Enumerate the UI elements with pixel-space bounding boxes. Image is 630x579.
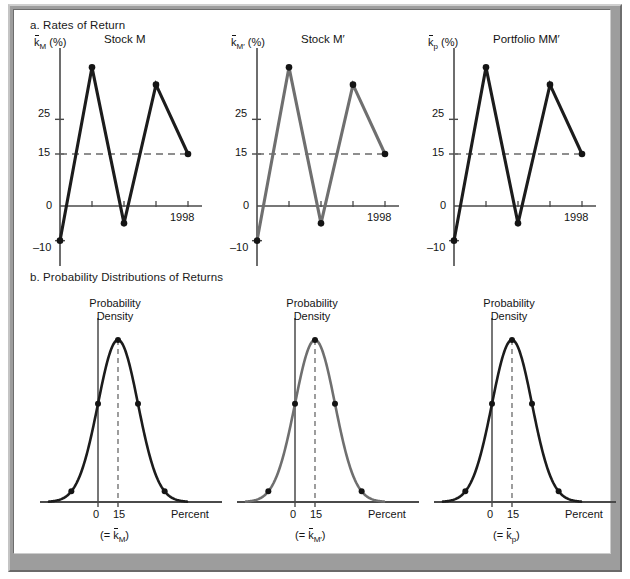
- panel-b3-mean-label: (= kp): [493, 529, 520, 544]
- panel-b1-density-label: Probability Density: [70, 297, 160, 322]
- panel-a1-ytick-15: 15: [38, 146, 50, 158]
- panel-b1-xtick-0: 0: [93, 508, 99, 520]
- panel-b2-marker-1: [292, 401, 298, 407]
- panel-b2-marker-0: [265, 488, 271, 494]
- panel-a2-data-point-1: [286, 64, 293, 71]
- panel-b3-mean-suffix: ): [516, 529, 520, 541]
- panel-a3-y-axis-label: kp (%): [428, 36, 458, 51]
- panel-a1-data-point-0: [57, 237, 64, 244]
- panel-b2-peak-marker: [312, 337, 318, 343]
- panel-b2-marker-3: [359, 488, 365, 494]
- panel-b1-mean-suffix: ): [125, 529, 129, 541]
- panel-a2-ytick-0: 0: [243, 199, 249, 211]
- panel-a2-y-axis-subscript: M′: [237, 42, 245, 51]
- panel-b3-xtick-0: 0: [487, 508, 493, 520]
- panel-b1-marker-1: [95, 401, 101, 407]
- panel-a3-data-point-0: [451, 237, 458, 244]
- panel-a3-ytick-25: 25: [432, 107, 444, 119]
- panel-b1-density-line1: Probability: [70, 297, 160, 310]
- panel-a3-y-axis-subscript: p: [434, 42, 438, 51]
- panel-a1-y-axis-units: (%): [49, 36, 66, 48]
- panel-b3-density-line2: Density: [464, 310, 554, 323]
- panel-b1-marker-2: [135, 401, 141, 407]
- panel-a1-data-point-2: [121, 220, 128, 227]
- panel-b1-marker-0: [68, 488, 74, 494]
- panel-a2-heading: Stock M′: [301, 33, 345, 45]
- panel-a2-data-point-0: [254, 237, 261, 244]
- panel-a1-y-axis-label: kM (%): [34, 36, 66, 51]
- panel-a2-ytick-25: 25: [235, 107, 247, 119]
- panel-a3-data-point-2: [515, 220, 522, 227]
- panel-a1-y-axis-subscript: M: [40, 42, 47, 51]
- panel-b2-density-label: Probability Density: [267, 297, 357, 322]
- panel-b2-density-line2: Density: [267, 310, 357, 323]
- panel-b3-density-label: Probability Density: [464, 297, 554, 322]
- panel-a3-data-point-1: [483, 64, 490, 71]
- panel-a1-data-point-4: [185, 151, 192, 158]
- panel-b1-density-line2: Density: [70, 310, 160, 323]
- panel-b3-marker-1: [489, 401, 495, 407]
- panel-b2-density-line1: Probability: [267, 297, 357, 310]
- panel-b1-peak-marker: [115, 337, 121, 343]
- panel-b2-mean-prefix: (=: [295, 529, 308, 541]
- panel-a1-data-point-1: [89, 64, 96, 71]
- panel-b2-xtick-15: 15: [310, 508, 322, 520]
- panel-b2-xtick-0: 0: [290, 508, 296, 520]
- panel-a3-ytick-0: 0: [440, 199, 446, 211]
- panel-a3-data-point-4: [579, 151, 586, 158]
- panel-a1-data-point-3: [153, 81, 160, 88]
- panel-a3-ytick-neg10: –10: [427, 241, 445, 253]
- panel-b2-x-axis-label: Percent: [368, 508, 406, 520]
- panel-b3-marker-0: [462, 488, 468, 494]
- panel-a2-data-point-4: [382, 151, 389, 158]
- panel-a2-ytick-neg10: –10: [230, 241, 248, 253]
- panel-b1-x-axis-label: Percent: [171, 508, 209, 520]
- panel-b1-mean-label: (= kM): [100, 529, 129, 544]
- panel-a1-heading: Stock M: [104, 33, 146, 45]
- panel-a3-data-point-3: [547, 81, 554, 88]
- panel-a3-ytick-15: 15: [432, 146, 444, 158]
- panel-b3-xtick-15: 15: [507, 508, 519, 520]
- panel-b1-mean-prefix: (=: [100, 529, 113, 541]
- panel-a3-heading: Portfolio MM′: [493, 33, 560, 45]
- panel-a2-data-point-2: [318, 220, 325, 227]
- panel-b3-peak-marker: [509, 337, 515, 343]
- panel-a2-y-axis-label: kM′ (%): [231, 36, 265, 51]
- panel-a1-ytick-25: 25: [38, 107, 50, 119]
- panel-a3-xtick-1998: 1998: [564, 211, 588, 223]
- panel-b1-xtick-15: 15: [113, 508, 125, 520]
- panel-b2-marker-2: [332, 401, 338, 407]
- panel-a2-ytick-15: 15: [235, 146, 247, 158]
- panel-a2-y-axis-units: (%): [248, 36, 265, 48]
- panel-a3-y-axis-units: (%): [441, 36, 458, 48]
- figure-root: a. Rates of Return b. Probability Distri…: [0, 0, 630, 579]
- plots-canvas: [0, 0, 630, 579]
- panel-a1-xtick-1998: 1998: [170, 211, 194, 223]
- panel-b3-x-axis-label: Percent: [565, 508, 603, 520]
- panel-b2-mean-suffix: ): [322, 529, 326, 541]
- panel-b3-marker-3: [556, 488, 562, 494]
- panel-b1-marker-3: [162, 488, 168, 494]
- panel-a1-ytick-0: 0: [46, 199, 52, 211]
- panel-b2-mean-label: (= kM′): [295, 529, 326, 544]
- panel-a2-data-point-3: [350, 81, 357, 88]
- panel-a1-ytick-neg10: –10: [33, 241, 51, 253]
- panel-b3-mean-prefix: (=: [493, 529, 506, 541]
- panel-a2-xtick-1998: 1998: [367, 211, 391, 223]
- panel-b3-density-line1: Probability: [464, 297, 554, 310]
- panel-b2-mean-subscript: M′: [314, 535, 322, 544]
- panel-b3-marker-2: [529, 401, 535, 407]
